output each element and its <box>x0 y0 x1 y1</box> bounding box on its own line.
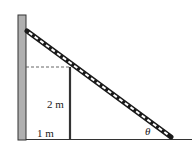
distance-label: 1 m <box>37 127 54 139</box>
ladder-diagram: 2 m 1 m θ <box>0 0 196 149</box>
wall <box>18 15 26 140</box>
height-label: 2 m <box>47 98 64 110</box>
angle-label: θ <box>145 125 151 137</box>
